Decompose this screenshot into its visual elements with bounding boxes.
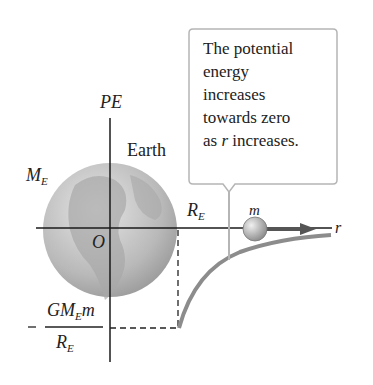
callout-line: towards zero	[203, 106, 337, 129]
callout-line: increases	[203, 83, 337, 106]
earth-label: Earth	[127, 140, 166, 161]
mass-ball	[243, 217, 267, 241]
callout-line: energy	[203, 60, 337, 83]
arrowhead-icon	[300, 223, 316, 235]
radius-label: RE	[187, 200, 205, 221]
earth-mass-label: ME	[26, 165, 48, 186]
pe-curve	[179, 235, 331, 328]
callout-line: as r increases.	[203, 129, 337, 152]
fraction-denominator: RE	[56, 332, 74, 353]
callout-text: The potential energy increases towards z…	[189, 29, 337, 184]
callout-line: The potential	[203, 37, 337, 60]
fraction-numerator: GMEm	[47, 300, 95, 321]
origin-label: O	[92, 232, 105, 253]
mass-label: m	[249, 202, 260, 219]
r-axis-label: r	[335, 219, 341, 237]
pe-axis-label: PE	[100, 92, 122, 113]
